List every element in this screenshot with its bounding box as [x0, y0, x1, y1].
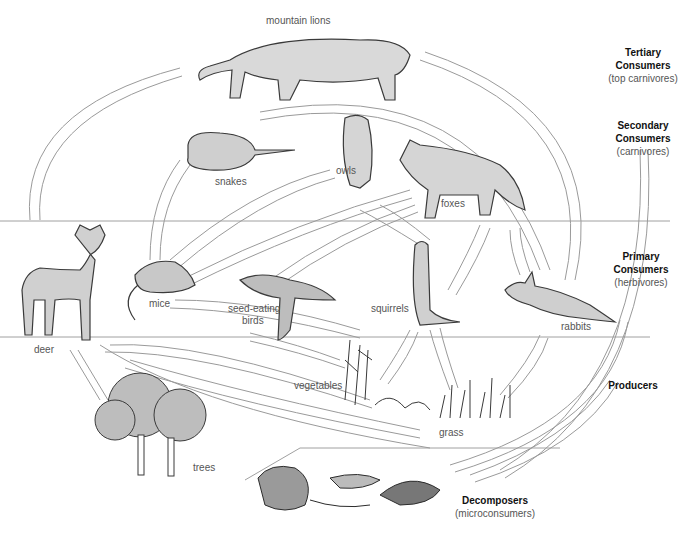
label-squirrels: squirrels [371, 303, 409, 314]
label-snakes: snakes [215, 176, 247, 187]
level-title: Decomposers [440, 494, 550, 507]
mouse-illustration [128, 261, 195, 320]
label-trees: trees [193, 462, 215, 473]
mountain-lion-illustration [199, 39, 410, 100]
squirrel-illustration [413, 242, 460, 326]
level-subtitle: (top carnivores) [600, 72, 686, 85]
level-title: Tertiary [600, 46, 686, 59]
label-vegetables: vegetables [294, 380, 342, 391]
level-title: Consumers [600, 59, 686, 72]
level-title: Producers [590, 379, 676, 392]
level-primary-consumers: Primary Consumers (herbivores) [598, 250, 684, 289]
label-grass: grass [439, 427, 463, 438]
level-tertiary-consumers: Tertiary Consumers (top carnivores) [600, 46, 686, 85]
level-decomposers: Decomposers (microconsumers) [440, 494, 550, 520]
level-subtitle: (carnivores) [600, 145, 686, 158]
snake-illustration [188, 133, 295, 171]
label-deer: deer [34, 344, 54, 355]
label-foxes: foxes [441, 198, 465, 209]
deer-illustration [22, 225, 105, 340]
label-seed-eating-birds-line2: birds [242, 315, 264, 326]
vegetables-illustration [345, 340, 430, 410]
label-mice: mice [149, 298, 170, 309]
label-rabbits: rabbits [561, 321, 591, 332]
level-producers: Producers [590, 379, 676, 392]
grass-illustration [440, 378, 510, 418]
level-title: Secondary [600, 119, 686, 132]
owl-illustration [343, 115, 372, 188]
trophic-divider-lines [0, 221, 670, 480]
label-mountain-lions: mountain lions [266, 15, 330, 26]
level-subtitle: (herbivores) [598, 276, 684, 289]
food-web-canvas [0, 0, 687, 540]
level-title: Consumers [600, 132, 686, 145]
label-owls: owls [336, 165, 356, 176]
level-subtitle: (microconsumers) [440, 507, 550, 520]
label-seed-eating-birds: seed-eating [228, 303, 280, 314]
level-title: Primary [598, 250, 684, 263]
decomposers-illustration [258, 466, 440, 510]
level-title: Consumers [598, 263, 684, 276]
level-secondary-consumers: Secondary Consumers (carnivores) [600, 119, 686, 158]
